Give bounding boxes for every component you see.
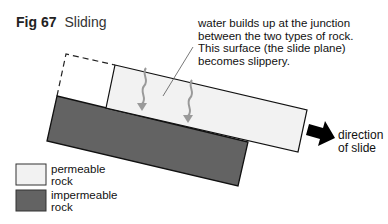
direction-of-slide-label: direction of slide bbox=[338, 129, 383, 155]
legend-label-line: permeable bbox=[51, 163, 105, 175]
slide-plane-annotation: water builds up at the junction between … bbox=[198, 17, 388, 67]
legend-label-impermeable: impermeable rock bbox=[51, 189, 117, 213]
annotation-line: becomes slippery. bbox=[198, 55, 388, 68]
legend-label-line: rock bbox=[51, 201, 117, 213]
legend-label-line: impermeable bbox=[51, 189, 117, 201]
direction-label-line: of slide bbox=[338, 142, 383, 155]
legend-swatch-permeable bbox=[16, 164, 46, 185]
annotation-line: This surface (the slide plane) bbox=[198, 42, 388, 55]
annotation-line: water builds up at the junction bbox=[198, 17, 388, 30]
legend-label-permeable: permeable rock bbox=[51, 163, 105, 187]
legend-swatch-impermeable bbox=[16, 190, 46, 211]
annotation-line: between the two types of rock. bbox=[198, 30, 388, 43]
original-position-outline bbox=[57, 54, 115, 96]
legend-label-line: rock bbox=[51, 175, 105, 187]
direction-arrow-icon bbox=[306, 121, 335, 146]
